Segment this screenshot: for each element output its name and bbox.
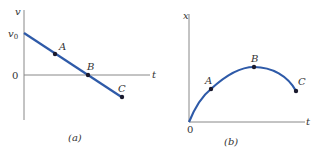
point-b-label: B xyxy=(250,53,258,64)
caption-a: (a) xyxy=(68,132,82,143)
point-c xyxy=(294,89,298,93)
v-axis-label: v xyxy=(15,6,21,17)
point-b xyxy=(86,73,90,77)
caption-b: (b) xyxy=(224,136,238,147)
panel-b-position-time-graph: x t 0 A B C (b) xyxy=(183,10,311,147)
kinematics-figure: v t 0 v0 A B C (a) x t 0 A B C (b) xyxy=(0,0,324,157)
v0-label: v0 xyxy=(8,28,18,41)
point-a-label: A xyxy=(204,75,212,86)
point-c-label: C xyxy=(118,83,126,94)
point-a xyxy=(53,52,57,56)
origin-label: 0 xyxy=(12,70,18,81)
point-c-label: C xyxy=(298,76,306,87)
point-a-label: A xyxy=(58,41,66,52)
x-axis-label: x xyxy=(183,10,189,21)
v0-subscript: 0 xyxy=(14,33,18,41)
point-a xyxy=(209,87,213,91)
point-b xyxy=(252,65,256,69)
t-axis-label: t xyxy=(152,69,157,80)
point-b-label: B xyxy=(86,61,94,72)
origin-label: 0 xyxy=(187,124,193,135)
t-axis-label: t xyxy=(306,116,311,127)
panel-a-velocity-time-graph: v t 0 v0 A B C (a) xyxy=(8,6,157,143)
point-c xyxy=(120,95,124,99)
velocity-line xyxy=(24,33,123,98)
